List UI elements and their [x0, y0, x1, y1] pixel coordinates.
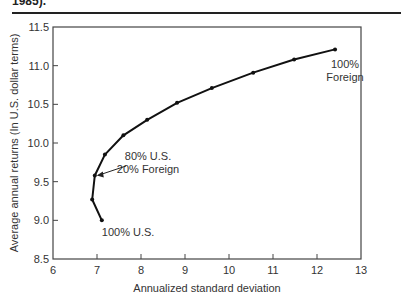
- data-point: [210, 86, 214, 90]
- data-point: [93, 173, 97, 177]
- x-axis-ticks: 678910111213: [50, 254, 367, 276]
- y-tick-label: 9.5: [34, 176, 49, 188]
- x-tick-label: 11: [267, 264, 278, 276]
- y-axis-title: Average annual returns (In U.S. dollar t…: [8, 34, 20, 253]
- x-tick-label: 10: [223, 264, 235, 276]
- annotation-label: 80% U.S.20% Foreign: [117, 150, 179, 175]
- data-point: [175, 101, 179, 105]
- annotation-label: 100%Foreign: [326, 58, 363, 83]
- frontier-chart: 8.59.09.510.010.511.011.5 678910111213 A…: [0, 0, 401, 305]
- plot-frame: [53, 27, 361, 259]
- x-tick-label: 7: [94, 264, 100, 276]
- x-tick-label: 13: [355, 264, 367, 276]
- data-point: [90, 197, 94, 201]
- data-point: [145, 118, 149, 122]
- annotation-label: 100% U.S.: [102, 226, 155, 238]
- y-tick-label: 10.0: [28, 137, 49, 149]
- y-tick-label: 11.0: [28, 60, 49, 72]
- data-point: [100, 218, 104, 222]
- y-tick-label: 9.0: [34, 214, 49, 226]
- series-line: [92, 49, 335, 220]
- y-tick-label: 11.5: [28, 21, 49, 33]
- y-tick-label: 8.5: [34, 253, 49, 265]
- data-point: [121, 133, 125, 137]
- data-point: [292, 57, 296, 61]
- y-tick-label: 10.5: [28, 98, 49, 110]
- data-point: [333, 47, 337, 51]
- frontier-line: [90, 47, 337, 222]
- x-tick-label: 9: [182, 264, 188, 276]
- x-axis-title: Annualized standard deviation: [133, 282, 280, 294]
- data-point: [251, 71, 255, 75]
- annotations: 100% U.S.80% U.S.20% Foreign100%Foreign: [97, 58, 364, 238]
- x-tick-label: 6: [50, 264, 56, 276]
- x-tick-label: 12: [311, 264, 323, 276]
- x-tick-label: 8: [138, 264, 144, 276]
- data-point: [103, 153, 107, 157]
